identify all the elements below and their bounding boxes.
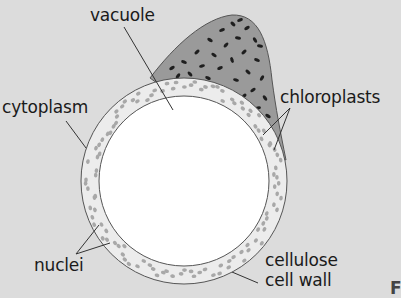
cell-wall-leader	[232, 272, 258, 283]
vacuole	[99, 96, 269, 266]
chloroplasts-label: chloroplasts	[280, 88, 380, 106]
nuclei-label: nuclei	[34, 256, 84, 274]
cytoplasm-leader	[66, 121, 86, 148]
vacuole-label: vacuole	[90, 6, 155, 24]
cell-wall-label-line1: cellulose	[265, 251, 338, 269]
nuclei-leader-2	[76, 243, 110, 254]
nuclei-leader-1	[76, 225, 99, 254]
corner-letter: F	[390, 279, 401, 297]
cytoplasm-label: cytoplasm	[2, 98, 88, 116]
cell-wall-label-line2: cell wall	[265, 271, 332, 289]
